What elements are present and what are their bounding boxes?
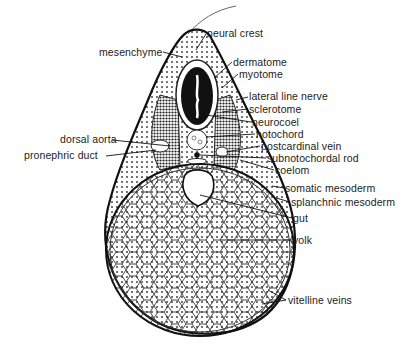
label-neural-crest: neural crest <box>207 27 263 39</box>
label-vitelline-veins: vitelline veins <box>288 294 352 306</box>
label-subnotochordal-rod: subnotochordal rod <box>267 152 359 164</box>
label-postcardinal-vein: postcardinal vein <box>261 140 342 152</box>
label-coelom: coelom <box>275 164 309 176</box>
label-lateral-line-nerve: lateral line nerve <box>249 90 328 102</box>
label-somatic-mesoderm: somatic mesoderm <box>285 182 375 194</box>
label-notochord: notochord <box>256 128 304 140</box>
label-neurocoel: neurocoel <box>252 116 299 128</box>
label-pronephric-duct: pronephric duct <box>24 149 98 161</box>
embryo-cross-section-figure: mesenchyme dorsal aorta pronephric duct … <box>0 0 412 355</box>
label-mesenchyme: mesenchyme <box>99 46 162 58</box>
label-sclerotome: sclerotome <box>249 103 301 115</box>
label-myotome: myotome <box>239 68 283 80</box>
label-dorsal-aorta: dorsal aorta <box>60 133 117 145</box>
label-splanchnic-mesoderm: splanchnic mesoderm <box>291 196 395 208</box>
label-dermatome: dermatome <box>233 56 287 68</box>
label-yolk: yolk <box>293 234 312 246</box>
label-gut: gut <box>293 212 308 224</box>
